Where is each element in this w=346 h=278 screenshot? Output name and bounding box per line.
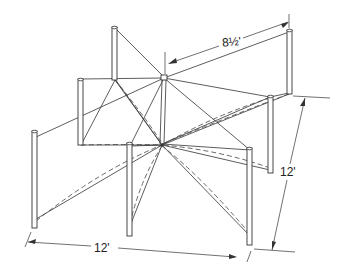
span-label: 8½' xyxy=(221,34,241,50)
front-width-label: 12' xyxy=(94,241,110,255)
center-bottom-node xyxy=(160,143,163,146)
post-e xyxy=(127,142,132,236)
right-depth-label: 12' xyxy=(280,165,296,179)
dimension-front: 12' xyxy=(25,232,251,262)
dimension-right: 12' xyxy=(254,96,330,252)
posts xyxy=(32,26,292,245)
center-top-node xyxy=(161,75,167,80)
tensile-structure-diagram: 8½' 12' 12' xyxy=(0,0,346,278)
post-f xyxy=(268,95,273,173)
post-g xyxy=(247,147,252,245)
post-b xyxy=(287,29,292,94)
post-a xyxy=(112,26,117,80)
dimension-span: 8½' xyxy=(165,14,289,74)
post-d xyxy=(32,130,37,228)
post-c xyxy=(78,78,83,145)
